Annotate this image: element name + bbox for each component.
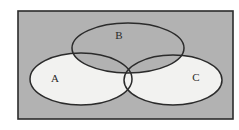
set-label-a: A (51, 72, 59, 84)
venn-diagram-figure: A B C (0, 0, 239, 130)
venn-diagram-canvas: A B C (0, 0, 239, 130)
set-label-c: C (192, 71, 200, 83)
set-label-b: B (115, 29, 123, 41)
